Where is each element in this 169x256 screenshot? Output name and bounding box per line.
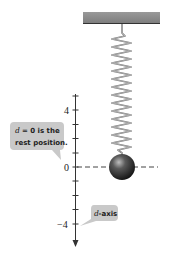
axis-label-callout: d-axis [80, 205, 118, 226]
rest-callout-line2: rest position. [15, 139, 68, 147]
ceiling-support [83, 12, 160, 24]
mass-ball [109, 154, 135, 180]
tick-label-4: 4 [64, 105, 69, 116]
tick-label-neg4: −4 [57, 219, 68, 230]
axis-arrow-down-icon [73, 240, 79, 247]
spring-mass-diagram: 4 0 −4 d = 0 is the rest position. d-axi… [0, 0, 169, 256]
rest-callout-line1: d = 0 is the [15, 125, 60, 135]
d-axis: 4 0 −4 [57, 94, 79, 247]
rest-position-callout: d = 0 is the rest position. [10, 122, 68, 160]
tick-label-0: 0 [64, 162, 69, 173]
spring [112, 24, 131, 156]
axis-label-text: d-axis [94, 208, 117, 218]
